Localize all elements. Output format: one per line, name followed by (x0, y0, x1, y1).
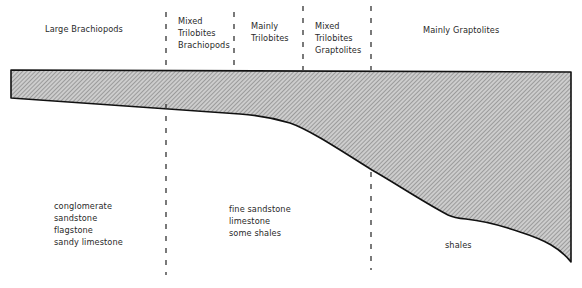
zone-label-mixed-trilobites-brachiopods: Mixed Trilobites Brachiopods (178, 15, 230, 51)
zone-label-large-brachiopods: Large Brachiopods (45, 23, 123, 35)
zone-label-mixed-trilobites-graptolites: Mixed Trilobites Graptolites (315, 20, 361, 56)
lithology-label-shelf: fine sandstone limestone some shales (229, 203, 291, 239)
zone-label-mainly-graptolites: Mainly Graptolites (423, 24, 499, 36)
lithology-label-basin: shales (445, 239, 472, 251)
lithology-label-nearshore: conglomerate sandstone flagstone sandy l… (54, 200, 123, 248)
zone-label-mainly-trilobites: Mainly Trilobites (251, 20, 289, 44)
